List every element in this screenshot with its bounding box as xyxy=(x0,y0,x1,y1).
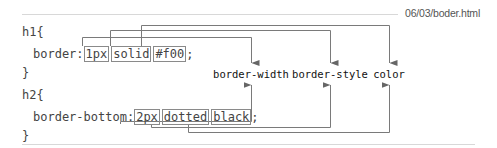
h1-selector-close: } xyxy=(22,66,29,80)
value-token-solid: solid xyxy=(111,46,151,62)
h1-semicolon: ; xyxy=(186,47,193,61)
label-border-width: border-width xyxy=(213,68,289,80)
h1-selector-open: h1{ xyxy=(22,25,44,39)
label-border-style: border-style xyxy=(292,68,368,80)
value-token-black: black xyxy=(211,109,251,125)
value-token-2px: 2px xyxy=(134,109,160,125)
h1-property: border: xyxy=(33,47,84,61)
value-token-1px: 1px xyxy=(84,46,110,62)
css-border-diagram: 06/03/boder.html h1{ border:1pxsolid#f00… xyxy=(0,0,497,148)
label-color: color xyxy=(373,68,405,80)
h2-property: border-bottom: xyxy=(33,110,134,124)
h1-declaration: border:1pxsolid#f00; xyxy=(33,46,194,62)
h2-selector-open: h2{ xyxy=(22,88,44,102)
file-path: 06/03/boder.html xyxy=(405,7,480,19)
h2-semicolon: ; xyxy=(251,110,258,124)
value-token-dotted: dotted xyxy=(162,109,209,125)
h2-declaration: border-bottom:2pxdottedblack; xyxy=(33,109,259,125)
h2-selector-close: } xyxy=(22,129,29,143)
value-token-f00: #f00 xyxy=(153,46,186,62)
